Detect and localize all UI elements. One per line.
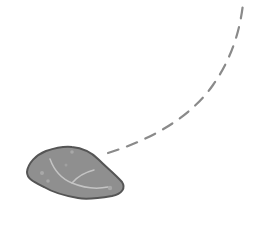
dashed-trajectory-path <box>108 4 243 153</box>
rock-trajectory-illustration <box>0 0 268 233</box>
rock-icon <box>27 147 124 199</box>
